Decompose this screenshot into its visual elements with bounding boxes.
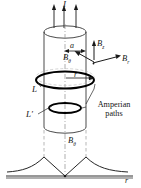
field-point-marker	[93, 63, 95, 65]
label-graph-btheta: Bθ	[68, 136, 76, 147]
chart-curve-btheta	[7, 157, 128, 176]
label-axis-r: r	[125, 177, 128, 185]
bz-vector	[92, 40, 96, 60]
chart-origin-marker	[64, 175, 67, 178]
label-amperian-paths: Amperian paths	[88, 100, 140, 119]
radius-r-dimension	[66, 76, 94, 80]
current-arrow-left	[52, 4, 56, 28]
figure-amperian-paths: I a Bz Bθ Br r L L′ Amperian paths Bθ r	[0, 0, 141, 188]
label-br: Br	[122, 54, 129, 65]
label-current: I	[63, 0, 66, 9]
figure-drawing	[0, 0, 141, 188]
amperian-paths-line1: Amperian	[98, 100, 131, 109]
label-path-L: L	[32, 85, 37, 94]
current-arrow-right	[74, 4, 78, 28]
label-path-L-prime: L′	[26, 110, 33, 119]
label-bz: Bz	[97, 39, 104, 50]
label-radius-a: a	[70, 42, 74, 50]
btheta-vector	[75, 51, 95, 62]
label-btheta: Bθ	[63, 53, 71, 64]
btheta-profile-chart	[6, 157, 133, 178]
br-vector	[93, 54, 121, 63]
label-radius-r: r	[74, 71, 77, 79]
amperian-paths-line2: paths	[105, 109, 122, 118]
